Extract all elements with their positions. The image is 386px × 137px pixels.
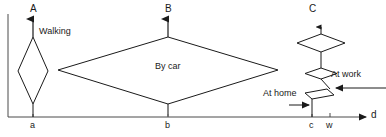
space-time-diagram: A Walking B By car C At home At work a b… xyxy=(0,0,386,137)
trajectory-b-label: B xyxy=(165,4,172,14)
diagram-canvas xyxy=(0,0,386,137)
trajectory-a-prism xyxy=(18,37,48,104)
tick-label-a: a xyxy=(30,121,35,130)
trajectory-c-sliver-prism xyxy=(305,89,334,99)
trajectory-b-mode-label: By car xyxy=(155,62,181,71)
annotation-arrows xyxy=(289,88,386,105)
at-home-annotation-label: At home xyxy=(263,89,297,98)
trajectory-a-mode-label: Walking xyxy=(39,27,71,36)
at-work-annotation-label: At work xyxy=(331,70,361,79)
trajectory-c-top-prism xyxy=(297,34,345,52)
tick-label-c: c xyxy=(309,121,314,130)
x-axis-label: d xyxy=(371,110,377,120)
trajectory-c-label: C xyxy=(309,4,316,14)
tick-label-b: b xyxy=(165,121,170,130)
trajectory-a-label: A xyxy=(30,4,37,14)
tick-label-w: w xyxy=(326,121,333,130)
trajectory-c-stem-lower xyxy=(321,79,330,89)
